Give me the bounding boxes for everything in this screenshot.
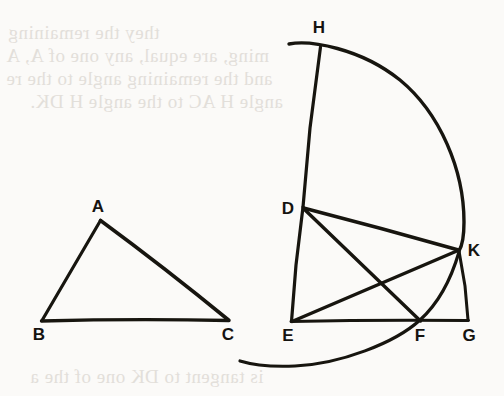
- vertex-label-h: H: [313, 18, 325, 37]
- vertex-label-k: K: [468, 241, 481, 260]
- vertex-label-a: A: [92, 197, 104, 216]
- edge-kg: [459, 251, 468, 320]
- geometry-figure-svg: A B C H D K E: [0, 0, 504, 396]
- triangle-abc-group: A B C: [33, 197, 234, 344]
- edge-ac: [101, 221, 229, 321]
- vertex-label-b: B: [33, 325, 45, 344]
- edge-ek: [292, 251, 458, 322]
- vertex-label-f: F: [415, 326, 425, 345]
- vertex-label-e: E: [282, 326, 293, 345]
- vertex-label-c: C: [222, 325, 234, 344]
- edge-bc: [42, 320, 230, 321]
- vertex-label-d: D: [282, 199, 294, 218]
- edge-ab: [42, 221, 101, 321]
- arc-inner-kf: [240, 252, 459, 366]
- edge-eg: [291, 320, 469, 321]
- edge-hd: [303, 47, 321, 207]
- edge-df: [304, 209, 421, 322]
- edge-de: [292, 207, 304, 322]
- sector-construction-group: H D K E F G: [240, 18, 481, 366]
- scanned-page: they the remaining ming, are equal, any …: [0, 0, 504, 396]
- vertex-label-g: G: [462, 326, 475, 345]
